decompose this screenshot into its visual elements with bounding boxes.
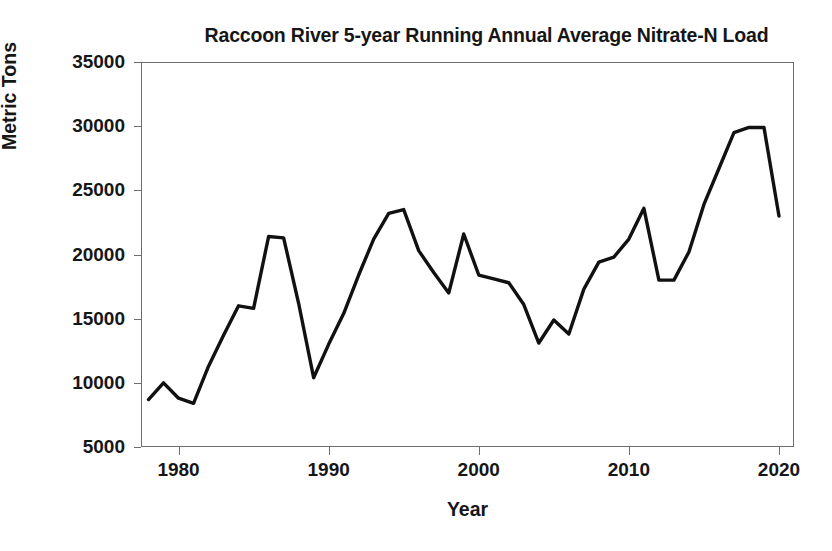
y-tick-mark (134, 447, 141, 448)
x-axis-title: Year (141, 498, 794, 521)
y-tick-label: 15000 (15, 308, 125, 330)
chart-figure: Raccoon River 5-year Running Annual Aver… (0, 0, 832, 551)
x-tick-mark (779, 447, 780, 455)
x-tick-label: 2020 (724, 459, 832, 481)
y-tick-mark (134, 62, 141, 63)
data-series-line (141, 62, 794, 447)
plot-area: 5000100001500020000250003000035000 19801… (141, 62, 794, 447)
y-tick-mark (134, 383, 141, 384)
x-tick-mark (329, 447, 330, 455)
x-tick-label: 1980 (124, 459, 234, 481)
x-tick-mark (629, 447, 630, 455)
x-tick-mark (479, 447, 480, 455)
y-tick-mark (134, 190, 141, 191)
x-tick-label: 2010 (574, 459, 684, 481)
y-tick-label: 30000 (15, 115, 125, 137)
chart-title: Raccoon River 5-year Running Annual Aver… (141, 24, 832, 47)
y-tick-label: 10000 (15, 372, 125, 394)
y-tick-label: 35000 (15, 51, 125, 73)
y-tick-mark (134, 126, 141, 127)
y-tick-label: 20000 (15, 244, 125, 266)
y-tick-mark (134, 255, 141, 256)
x-tick-mark (179, 447, 180, 455)
y-tick-label: 5000 (15, 436, 125, 458)
x-tick-label: 2000 (424, 459, 534, 481)
y-tick-label: 25000 (15, 179, 125, 201)
x-tick-label: 1990 (274, 459, 384, 481)
y-tick-mark (134, 319, 141, 320)
